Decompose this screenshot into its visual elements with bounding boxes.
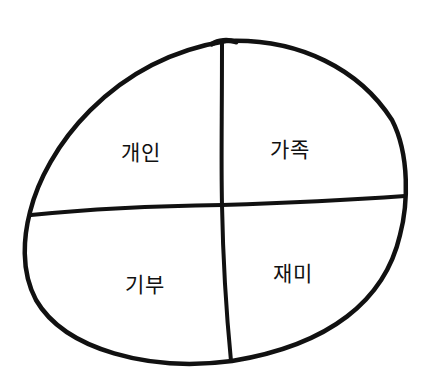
quadrant-label-family: 가족: [270, 133, 310, 163]
vertical-divider: [222, 43, 231, 361]
oval-outline: [25, 41, 406, 364]
quadrant-label-fun: 재미: [273, 257, 313, 287]
quadrant-label-donation: 기부: [125, 268, 165, 298]
quadrant-label-personal: 개인: [121, 136, 161, 166]
horizontal-divider: [31, 196, 405, 215]
quadrant-oval-diagram: [0, 0, 431, 390]
